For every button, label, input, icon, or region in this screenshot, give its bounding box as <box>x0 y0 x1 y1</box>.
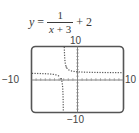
graph-window <box>0 0 139 133</box>
